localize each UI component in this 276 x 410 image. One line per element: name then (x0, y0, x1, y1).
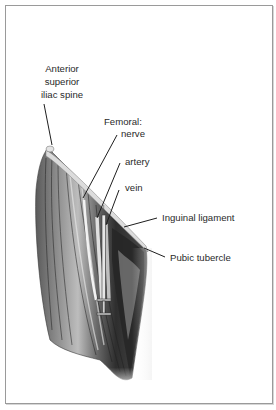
label-femoral-vein: vein (125, 181, 143, 194)
leader-asis (44, 104, 52, 145)
label-inguinal-ligament: Inguinal ligament (162, 211, 235, 224)
label-asis-line2: superior (22, 75, 102, 88)
leader-nerve (83, 135, 117, 198)
anterior-superior-iliac-spine (46, 146, 54, 152)
label-femoral-artery: artery (125, 155, 150, 168)
label-asis-line1: Anterior (22, 62, 102, 75)
label-asis-line3: iliac spine (22, 88, 102, 101)
label-pubic-tubercle: Pubic tubercle (170, 251, 231, 264)
label-femoral-nerve: nerve (121, 127, 145, 140)
label-asis: Anterior superior iliac spine (22, 62, 102, 101)
leader-inguinal-ligament (124, 218, 157, 227)
